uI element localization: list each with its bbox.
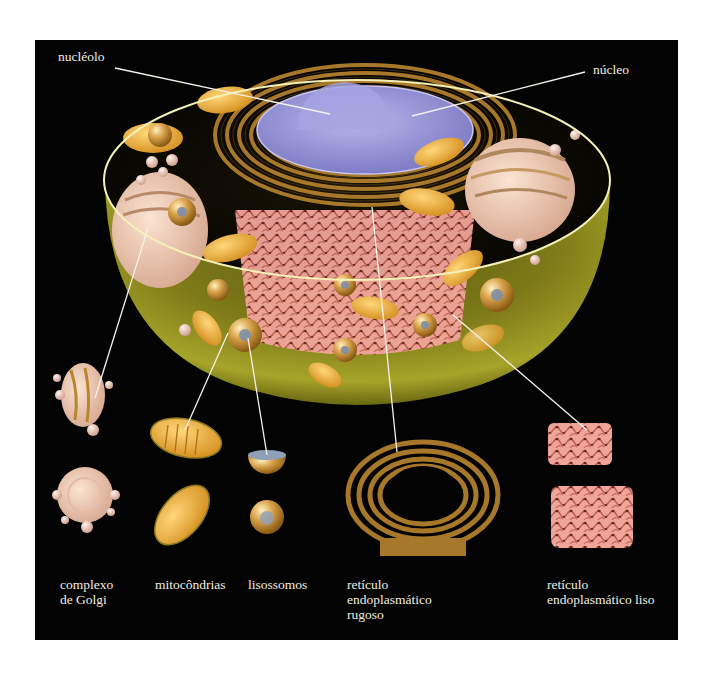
cell-hemisphere bbox=[104, 65, 610, 405]
label-golgi-line2: de Golgi bbox=[60, 592, 113, 607]
smooth-er-detail bbox=[548, 423, 633, 548]
label-golgi-line1: complexo bbox=[60, 577, 113, 592]
label-rer-line2: endoplasmático bbox=[347, 592, 432, 607]
label-ser-line1: retículo bbox=[547, 577, 655, 592]
label-ser-line2: endoplasmático liso bbox=[547, 592, 655, 607]
label-ser: retículo endoplasmático liso bbox=[547, 577, 655, 607]
golgi-detail bbox=[52, 363, 120, 533]
label-rer-line3: rugoso bbox=[347, 607, 432, 622]
rough-er-detail bbox=[348, 442, 498, 556]
label-nucleolo: nucléolo bbox=[58, 49, 105, 64]
label-nucleo: núcleo bbox=[593, 62, 629, 77]
label-rer: retículo endoplasmático rugoso bbox=[347, 577, 432, 622]
label-rer-line1: retículo bbox=[347, 577, 432, 592]
cell-diagram-panel: nucléolo núcleo complexo de Golgi mitocô… bbox=[35, 40, 678, 640]
cell-illustration bbox=[35, 40, 678, 640]
label-mitocondrias: mitocôndrias bbox=[155, 577, 226, 592]
mitochondria-detail bbox=[144, 412, 225, 555]
label-golgi: complexo de Golgi bbox=[60, 577, 113, 607]
lysosome-detail bbox=[248, 450, 286, 534]
label-lisossomos: lisossomos bbox=[248, 577, 307, 592]
